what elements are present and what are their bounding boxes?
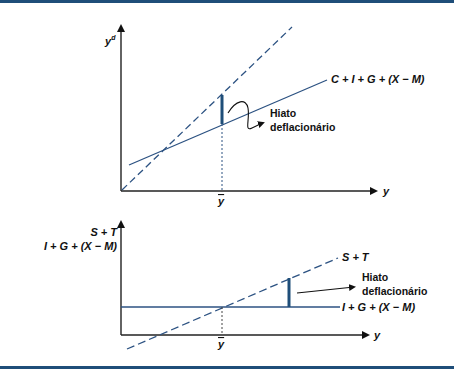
top-45-degree-line <box>122 27 292 190</box>
keynesian-cross-diagram: yd y y C + I + G + (X − M) Hiato deflaci… <box>0 0 454 377</box>
bottom-gap-label-line2: deflacionário <box>362 285 427 297</box>
bottom-gap-pointer-arrow <box>297 287 354 293</box>
top-gap-label-line2: deflacionário <box>270 121 335 133</box>
savings-line-label: S + T <box>342 251 370 263</box>
top-equilibrium-label: y <box>217 195 225 207</box>
bottom-y-axis-label-line1: S + T <box>90 226 118 238</box>
bottom-x-axis-label: y <box>373 329 381 341</box>
bottom-y-axis-label-line2: I + G + (X − M) <box>44 240 117 252</box>
bottom-equilibrium-label: y <box>217 338 225 350</box>
top-x-axis-label: y <box>382 185 390 197</box>
bottom-chart: S + T I + G + (X − M) y y S + T Hiato de… <box>44 222 427 350</box>
injections-line-label: I + G + (X − M) <box>342 301 415 313</box>
top-y-axis-label: yd <box>104 34 116 47</box>
bottom-gap-label-line1: Hiato <box>362 271 388 283</box>
top-chart: yd y y C + I + G + (X − M) Hiato deflaci… <box>104 26 425 207</box>
aggregate-demand-label: C + I + G + (X − M) <box>331 73 425 85</box>
top-gap-label-line1: Hiato <box>270 107 296 119</box>
